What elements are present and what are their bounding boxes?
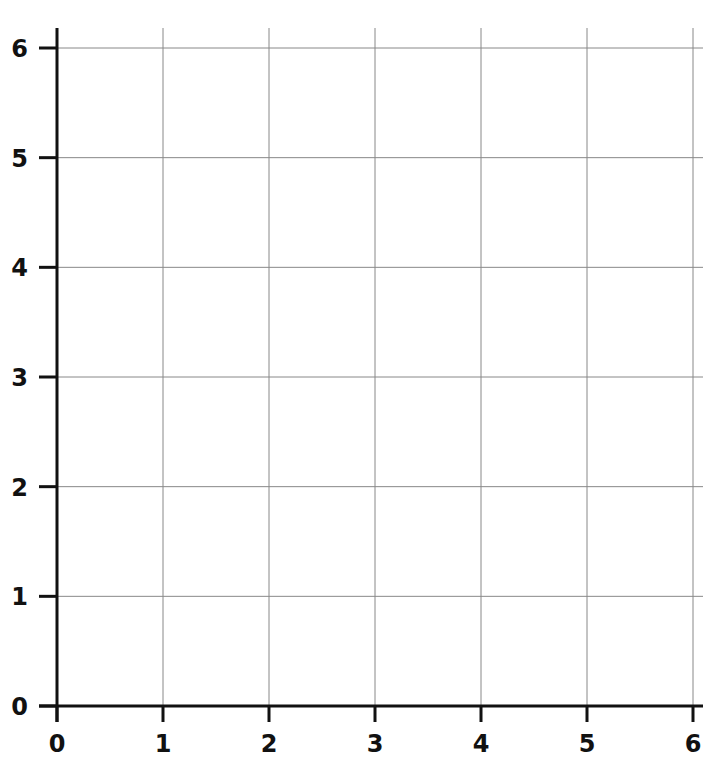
x-tick-label: 0 <box>49 730 66 758</box>
y-tick-label: 5 <box>11 145 28 173</box>
grid-lines <box>57 28 703 706</box>
x-axis-ticks: 0123456 <box>49 706 702 758</box>
y-tick-label: 6 <box>11 35 28 63</box>
y-tick-label: 1 <box>11 583 28 611</box>
x-tick-label: 1 <box>155 730 172 758</box>
y-axis-ticks: 0123456 <box>11 35 57 721</box>
y-tick-label: 2 <box>11 474 28 502</box>
x-tick-label: 6 <box>685 730 702 758</box>
coordinate-grid-chart: 0123456 0123456 <box>0 0 727 784</box>
x-tick-label: 2 <box>261 730 278 758</box>
y-tick-label: 0 <box>11 693 28 721</box>
x-tick-label: 3 <box>367 730 384 758</box>
x-tick-label: 4 <box>473 730 490 758</box>
axes <box>39 28 703 722</box>
y-tick-label: 4 <box>11 254 28 282</box>
x-tick-label: 5 <box>579 730 596 758</box>
y-tick-label: 3 <box>11 364 28 392</box>
